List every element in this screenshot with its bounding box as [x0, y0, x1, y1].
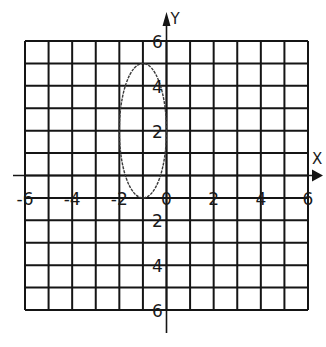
- x-tick-label: 0: [161, 189, 172, 209]
- x-tick-label: 6: [303, 189, 314, 209]
- axes: X Y: [13, 10, 323, 333]
- y-tick-label: 6: [152, 32, 163, 52]
- y-axis-label: Y: [170, 10, 181, 28]
- y-tick-label: 6: [152, 301, 163, 321]
- x-tick-label: 2: [208, 189, 219, 209]
- y-tick-label: 4: [152, 256, 163, 276]
- x-tick-label: -4: [64, 189, 81, 209]
- y-axis-arrow-icon: [163, 12, 171, 26]
- y-tick-label: 2: [152, 122, 163, 142]
- coordinate-plot: X Y -6-4-20246 642246: [0, 0, 326, 347]
- y-tick-label: 4: [152, 77, 163, 97]
- x-axis-arrow-icon: [312, 170, 323, 182]
- x-axis-label: X: [312, 150, 322, 168]
- y-tick-label: 2: [152, 211, 163, 231]
- x-tick-label: 4: [255, 189, 266, 209]
- x-tick-label: -6: [17, 189, 34, 209]
- x-tick-label: -2: [111, 189, 128, 209]
